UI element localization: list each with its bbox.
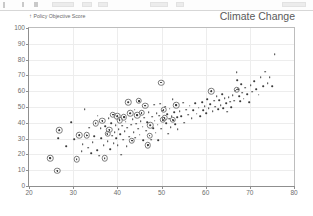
data-point[interactable] bbox=[239, 101, 241, 103]
data-point[interactable] bbox=[220, 105, 222, 107]
data-point[interactable] bbox=[57, 137, 59, 139]
data-point[interactable] bbox=[191, 117, 193, 119]
highlighted-data-point[interactable] bbox=[169, 116, 176, 123]
data-point[interactable] bbox=[116, 138, 118, 140]
data-point[interactable] bbox=[124, 130, 126, 132]
data-point[interactable] bbox=[115, 124, 117, 126]
data-point[interactable] bbox=[153, 104, 155, 106]
data-point[interactable] bbox=[172, 99, 174, 101]
data-point[interactable] bbox=[238, 95, 240, 97]
data-point[interactable] bbox=[225, 102, 227, 104]
data-point[interactable] bbox=[189, 105, 191, 107]
highlighted-data-point[interactable] bbox=[56, 127, 63, 134]
highlighted-data-point[interactable] bbox=[101, 155, 108, 162]
data-point[interactable] bbox=[136, 123, 138, 125]
data-point[interactable] bbox=[143, 117, 145, 119]
data-point[interactable] bbox=[245, 87, 247, 89]
data-point[interactable] bbox=[111, 135, 113, 137]
highlighted-data-point[interactable] bbox=[208, 88, 215, 95]
data-point[interactable] bbox=[267, 83, 269, 85]
data-point[interactable] bbox=[109, 148, 111, 150]
toolbar-icon-2[interactable] bbox=[22, 2, 24, 7]
data-point[interactable] bbox=[169, 108, 171, 110]
data-point[interactable] bbox=[174, 112, 176, 114]
data-point[interactable] bbox=[127, 127, 129, 129]
data-point[interactable] bbox=[207, 98, 209, 100]
data-point[interactable] bbox=[236, 71, 238, 73]
data-point[interactable] bbox=[271, 85, 273, 87]
data-point[interactable] bbox=[140, 120, 142, 122]
data-point[interactable] bbox=[167, 133, 169, 135]
data-point[interactable] bbox=[246, 94, 248, 96]
data-point[interactable] bbox=[120, 133, 122, 135]
toolbar-field-2[interactable] bbox=[82, 2, 92, 7]
data-point[interactable] bbox=[242, 92, 244, 94]
data-point[interactable] bbox=[184, 122, 186, 124]
data-point[interactable] bbox=[133, 131, 135, 133]
data-point[interactable] bbox=[157, 124, 159, 126]
data-point[interactable] bbox=[113, 142, 115, 144]
data-point[interactable] bbox=[269, 76, 271, 78]
data-point[interactable] bbox=[159, 103, 161, 105]
data-point[interactable] bbox=[90, 153, 92, 155]
data-point[interactable] bbox=[151, 139, 153, 141]
data-point[interactable] bbox=[212, 110, 214, 112]
data-point[interactable] bbox=[108, 117, 110, 119]
highlighted-data-point[interactable] bbox=[84, 132, 91, 139]
data-point[interactable] bbox=[248, 101, 250, 103]
data-point[interactable] bbox=[137, 128, 139, 130]
data-point[interactable] bbox=[134, 109, 136, 111]
data-point[interactable] bbox=[166, 122, 168, 124]
data-point[interactable] bbox=[132, 119, 134, 121]
highlighted-data-point[interactable] bbox=[142, 102, 149, 109]
data-point[interactable] bbox=[179, 111, 181, 113]
data-point[interactable] bbox=[250, 84, 252, 86]
highlighted-data-point[interactable] bbox=[146, 132, 153, 139]
data-point[interactable] bbox=[145, 130, 147, 132]
data-point[interactable] bbox=[122, 139, 124, 141]
data-point[interactable] bbox=[209, 104, 211, 106]
highlighted-data-point[interactable] bbox=[147, 122, 154, 129]
data-point[interactable] bbox=[196, 113, 198, 115]
data-point[interactable] bbox=[142, 126, 144, 128]
toolbar-field-4[interactable] bbox=[150, 2, 168, 7]
data-point[interactable] bbox=[155, 132, 157, 134]
data-point[interactable] bbox=[185, 109, 187, 111]
highlighted-data-point[interactable] bbox=[73, 156, 80, 163]
data-point[interactable] bbox=[160, 128, 162, 130]
data-point[interactable] bbox=[230, 106, 232, 108]
data-point[interactable] bbox=[114, 131, 116, 133]
highlighted-data-point[interactable] bbox=[47, 155, 54, 162]
data-point[interactable] bbox=[125, 121, 127, 123]
data-point[interactable] bbox=[154, 120, 156, 122]
data-point[interactable] bbox=[139, 134, 141, 136]
highlighted-data-point[interactable] bbox=[160, 107, 167, 114]
data-point[interactable] bbox=[82, 143, 84, 145]
highlighted-data-point[interactable] bbox=[161, 115, 168, 122]
data-point[interactable] bbox=[110, 122, 112, 124]
data-point[interactable] bbox=[94, 135, 96, 137]
data-point[interactable] bbox=[74, 138, 76, 140]
data-point[interactable] bbox=[151, 116, 153, 118]
data-point[interactable] bbox=[118, 128, 120, 130]
data-point[interactable] bbox=[204, 106, 206, 108]
toolbar-icon-3[interactable] bbox=[34, 2, 38, 7]
data-point[interactable] bbox=[224, 97, 226, 99]
data-point[interactable] bbox=[177, 128, 179, 130]
data-point[interactable] bbox=[228, 97, 230, 99]
data-point[interactable] bbox=[264, 71, 266, 73]
data-point[interactable] bbox=[84, 108, 86, 110]
highlighted-data-point[interactable] bbox=[233, 86, 240, 93]
data-point[interactable] bbox=[221, 93, 223, 95]
data-point[interactable] bbox=[194, 103, 196, 105]
data-point[interactable] bbox=[274, 53, 276, 55]
data-point[interactable] bbox=[181, 115, 183, 117]
data-point[interactable] bbox=[216, 95, 218, 97]
data-point[interactable] bbox=[198, 107, 200, 109]
data-point[interactable] bbox=[117, 144, 119, 146]
data-point[interactable] bbox=[215, 106, 217, 108]
data-point[interactable] bbox=[130, 124, 132, 126]
data-point[interactable] bbox=[193, 110, 195, 112]
toolbar-field-6[interactable] bbox=[282, 2, 306, 7]
data-point[interactable] bbox=[176, 117, 178, 119]
